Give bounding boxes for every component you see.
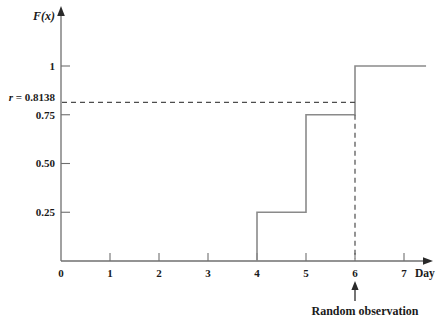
x-tick-label-4: 4 (247, 267, 267, 279)
r-equals-value: = 0.8138 (16, 91, 55, 103)
x-tick-label-2: 2 (149, 267, 169, 279)
y-axis-arrowhead-icon (57, 6, 65, 16)
observation-arrow-head-icon (351, 281, 358, 290)
x-tick-label-0: 0 (51, 267, 71, 279)
r-value-label: r = 0.8138 (5, 91, 55, 103)
x-axis-title: Day (415, 267, 435, 279)
x-axis-arrowhead-icon (423, 257, 433, 265)
x-tick-label-6: 6 (345, 267, 365, 279)
r-variable: r (9, 91, 13, 103)
cdf-step-line (257, 66, 426, 261)
y-tick-label-050: 0.50 (5, 157, 55, 169)
x-tick-label-7: 7 (394, 267, 414, 279)
y-tick-label-025: 0.25 (5, 206, 55, 218)
y-axis-title: F(x) (33, 10, 55, 22)
x-tick-label-3: 3 (198, 267, 218, 279)
y-tick-label-1: 1 (5, 60, 55, 72)
x-tick-label-1: 1 (100, 267, 120, 279)
y-tick-label-075: 0.75 (5, 109, 55, 121)
x-tick-label-5: 5 (296, 267, 316, 279)
random-observation-annotation: Random observation (290, 305, 440, 317)
cdf-step-figure: F(x) r = 0.8138 1 0.75 0.50 0.25 0 1 2 3… (0, 0, 444, 324)
